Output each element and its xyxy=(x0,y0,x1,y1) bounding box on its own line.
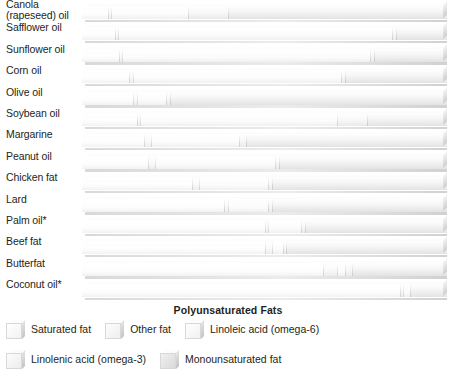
row-label-peanut-oil: Peanut oil xyxy=(6,151,80,163)
bar-segment-la xyxy=(133,70,341,83)
bar-front-face xyxy=(82,220,447,233)
bar-bottom-shadow xyxy=(85,298,447,301)
bar-front-face xyxy=(82,6,447,19)
swatch-front-face xyxy=(160,353,176,369)
swatch-front-face xyxy=(185,323,201,339)
stacked-bar xyxy=(82,24,447,41)
legend-item-other[interactable]: Other fat xyxy=(105,320,171,339)
legend-item-ala[interactable]: Linolenic acid (omega-3) xyxy=(6,350,146,369)
row-label-margarine: Margarine xyxy=(6,129,80,141)
stacked-bar xyxy=(82,131,447,148)
row-label-palm-oil: Palm oil* xyxy=(6,215,80,227)
bar-segment-la xyxy=(337,263,344,276)
stacked-bar xyxy=(82,110,447,127)
bar-segment-la xyxy=(140,113,337,126)
row-label-chicken-fat: Chicken fat xyxy=(6,172,80,184)
bar-segment-la xyxy=(228,199,268,212)
bar-segment-sat xyxy=(82,134,144,147)
chart-row: Coconut oil* xyxy=(0,279,456,300)
chart-row: Lard xyxy=(0,194,456,215)
bar-front-face xyxy=(82,241,447,254)
row-label-corn-oil: Corn oil xyxy=(6,65,80,77)
stacked-bar xyxy=(82,67,447,84)
chart-row: Chicken fat xyxy=(0,172,456,193)
row-label-butterfat: Butterfat xyxy=(6,258,80,270)
swatch-side-face xyxy=(121,320,124,339)
bar-segment-la xyxy=(118,27,392,40)
bar-segment-mufa xyxy=(279,156,447,169)
stacked-bar xyxy=(82,3,447,20)
row-label-coconut-oil: Coconut oil* xyxy=(6,279,80,291)
bar-segment-mufa xyxy=(170,92,447,105)
bar-front-face xyxy=(82,263,447,276)
swatch-side-face xyxy=(201,320,204,339)
bar-front-face xyxy=(82,177,447,190)
stacked-bar xyxy=(82,260,447,277)
legend-item-sat[interactable]: Saturated fat xyxy=(6,320,91,339)
legend-row: Saturated fatOther fatLinoleic acid (ome… xyxy=(0,320,456,350)
bar-segment-other xyxy=(148,156,155,169)
legend-swatch-linolenic-acid xyxy=(6,350,25,369)
bar-segment-sat xyxy=(82,220,265,233)
chart-row: Canola (rapeseed) oil xyxy=(0,1,456,22)
stacked-bar xyxy=(82,217,447,234)
stacked-bar xyxy=(82,174,447,191)
bar-segment-sat xyxy=(82,49,119,62)
bar-segment-mufa xyxy=(228,6,447,19)
legend-item-mufa[interactable]: Monounsaturated fat xyxy=(160,350,281,369)
chart-row: Peanut oil xyxy=(0,151,456,172)
bar-segment-la xyxy=(155,156,275,169)
bar-segment-ala xyxy=(337,113,366,126)
row-label-beef-fat: Beef fat xyxy=(6,236,80,248)
bar-front-face xyxy=(82,70,447,83)
bar-front-face xyxy=(82,156,447,169)
row-label-canolarapeseed-oil: Canola (rapeseed) oil xyxy=(6,0,80,22)
stacked-bar xyxy=(82,46,447,63)
bar-segment-la xyxy=(122,49,370,62)
stacked-bar xyxy=(82,238,447,255)
bar-segment-la xyxy=(137,92,166,105)
legend-item-la[interactable]: Linoleic acid (omega-6) xyxy=(185,320,319,339)
bar-segment-la xyxy=(403,284,410,297)
bar-segment-mufa xyxy=(272,177,447,190)
bar-segment-mufa xyxy=(246,134,447,147)
legend-label-other: Other fat xyxy=(130,320,171,339)
bar-segment-mufa xyxy=(367,113,447,126)
legend-swatch-other-fat xyxy=(105,320,124,339)
legend-swatch-saturated-fat xyxy=(6,320,25,339)
chart-plot-area: Canola (rapeseed) oilSafflower oilSunflo… xyxy=(0,0,456,300)
legend-label-mufa: Monounsaturated fat xyxy=(185,350,281,369)
bar-segment-mufa xyxy=(396,27,447,40)
bar-segment-mufa xyxy=(286,241,447,254)
bar-segment-mufa xyxy=(345,70,447,83)
bar-front-face xyxy=(82,134,447,147)
bar-segment-sat xyxy=(82,241,265,254)
chart-row: Soybean oil xyxy=(0,108,456,129)
legend-label-sat: Saturated fat xyxy=(31,320,91,339)
bar-segment-sat xyxy=(82,177,192,190)
bar-segment-ala xyxy=(345,263,352,276)
bar-segment-other xyxy=(323,263,338,276)
bar-segment-la xyxy=(111,6,188,19)
bar-segment-la xyxy=(272,241,283,254)
bar-segment-mufa xyxy=(352,263,447,276)
legend-label-la: Linoleic acid (omega-6) xyxy=(210,320,319,339)
bar-segment-sat xyxy=(82,199,224,212)
row-label-lard: Lard xyxy=(6,194,80,206)
swatch-side-face xyxy=(22,320,25,339)
bar-segment-sat xyxy=(82,156,148,169)
swatch-front-face xyxy=(105,323,121,339)
bar-segment-la xyxy=(151,134,239,147)
legend-swatch-monounsaturated-fat xyxy=(160,350,179,369)
chart-row: Olive oil xyxy=(0,87,456,108)
row-label-soybean-oil: Soybean oil xyxy=(6,108,80,120)
chart-legend: Saturated fatOther fatLinoleic acid (ome… xyxy=(0,320,456,380)
bar-segment-ala xyxy=(239,134,246,147)
swatch-side-face xyxy=(176,350,179,369)
chart-row: Butterfat xyxy=(0,258,456,279)
swatch-front-face xyxy=(6,353,22,369)
stacked-bar xyxy=(82,196,447,213)
bar-segment-la xyxy=(199,177,268,190)
chart-row: Beef fat xyxy=(0,236,456,257)
bar-front-face xyxy=(82,92,447,105)
